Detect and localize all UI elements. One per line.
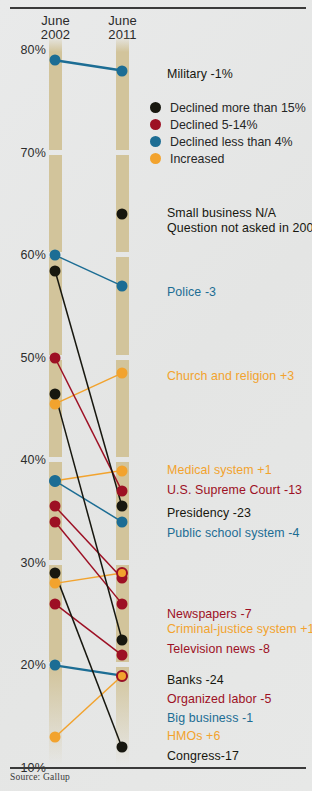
legend-label: Declined 5-14% xyxy=(170,118,257,132)
point-2011-presidency xyxy=(117,501,128,512)
legend-swatch-blue-icon xyxy=(150,136,161,147)
bottom-rule xyxy=(10,767,306,769)
point-2011-television-news xyxy=(117,598,128,609)
point-2002-presidency xyxy=(50,265,61,276)
connector-organized-labor xyxy=(55,604,122,655)
series-label-presidency-23: Presidency -23 xyxy=(167,506,251,520)
point-2002-television-news xyxy=(50,516,61,527)
point-2011-banks xyxy=(117,634,128,645)
point-2002-criminal-justice-system xyxy=(50,578,61,589)
point-2002-newspapers xyxy=(50,501,61,512)
series-label-small-business-n-a: Small business N/A xyxy=(167,206,276,220)
series-label-police-3: Police -3 xyxy=(167,285,216,299)
point-2011-small-business xyxy=(117,209,128,220)
legend-item-red: Declined 5-14% xyxy=(150,117,310,132)
connector-public-school-system xyxy=(55,481,122,522)
source-note: Source: Gallup xyxy=(10,772,70,782)
point-2002-banks xyxy=(50,388,61,399)
point-2002-police xyxy=(50,250,61,261)
column-header-2011-month: June xyxy=(85,14,160,28)
series-label-newspapers-7: Newspapers -7 xyxy=(167,607,252,621)
point-2011-congress xyxy=(117,742,128,753)
axis-bar-left-segment xyxy=(49,667,62,765)
connector-u-s-supreme-court xyxy=(55,358,122,491)
series-label-public-school-system-4: Public school system -4 xyxy=(167,526,299,540)
series-label-big-business-1: Big business -1 xyxy=(167,711,253,725)
connector-banks xyxy=(55,394,122,640)
connector-police xyxy=(55,255,122,286)
series-label-hmos-6: HMOs +6 xyxy=(167,729,220,743)
legend-swatch-red-icon xyxy=(150,119,161,130)
connector-medical-system xyxy=(55,471,122,481)
connector-newspapers xyxy=(55,506,122,578)
y-tick-40: 40% xyxy=(6,453,46,467)
point-2011-church-and-religion xyxy=(117,368,128,379)
point-2011-medical-system xyxy=(117,465,128,476)
point-2011-public-school-system xyxy=(117,516,128,527)
point-2002-public-school-system xyxy=(50,475,61,486)
axis-bar-right-segment xyxy=(116,155,129,253)
legend-item-blue: Declined less than 4% xyxy=(150,134,310,149)
legend-swatch-black-icon xyxy=(150,102,161,113)
y-tick-60: 60% xyxy=(6,248,46,262)
point-2011-u-s-supreme-court xyxy=(117,486,128,497)
axis-bar-right-segment xyxy=(116,257,129,355)
connector-television-news xyxy=(55,522,122,604)
connector-church-and-religion xyxy=(55,373,122,404)
series-label-medical-system-1: Medical system +1 xyxy=(167,463,272,477)
point-2011-organized-labor xyxy=(117,650,128,661)
point-2011-hmos xyxy=(116,670,128,682)
point-2002-church-and-religion xyxy=(50,398,61,409)
legend-swatch-orange-icon xyxy=(150,153,161,164)
axis-bar-right-segment xyxy=(116,36,129,150)
y-tick-80: 80% xyxy=(6,43,46,57)
axis-bar-left-segment xyxy=(49,36,62,150)
connector-congress xyxy=(55,573,122,747)
point-2002-military xyxy=(50,55,61,66)
top-rule xyxy=(10,7,306,9)
legend-label: Increased xyxy=(170,152,224,166)
connector-presidency xyxy=(55,271,122,507)
point-2002-congress xyxy=(50,568,61,579)
y-tick-70: 70% xyxy=(6,146,46,160)
series-label-military-1: Military -1% xyxy=(167,67,233,81)
series-label-banks-24: Banks -24 xyxy=(167,673,224,687)
point-2011-criminal-justice-system xyxy=(116,567,128,579)
point-2002-big-business xyxy=(50,660,61,671)
point-2002-hmos xyxy=(50,732,61,743)
y-tick-50: 50% xyxy=(6,351,46,365)
connector-military xyxy=(55,60,122,70)
connector-criminal-justice-system xyxy=(55,573,122,583)
y-tick-20: 20% xyxy=(6,658,46,672)
legend-label: Declined more than 15% xyxy=(170,101,306,115)
legend-label: Declined less than 4% xyxy=(170,135,293,149)
series-label-church-and-religion-3: Church and religion +3 xyxy=(167,369,294,383)
point-2002-organized-labor xyxy=(50,598,61,609)
point-2011-police xyxy=(117,280,128,291)
chart-canvas: June 2002 June 2011 80%70%60%50%40%30%20… xyxy=(0,0,312,791)
point-2011-military xyxy=(117,65,128,76)
axis-bar-left-segment xyxy=(49,155,62,253)
series-label-television-news-8: Television news -8 xyxy=(167,642,270,656)
point-2002-u-s-supreme-court xyxy=(50,352,61,363)
connector-big-business xyxy=(55,665,122,675)
legend: Declined more than 15%Declined 5-14%Decl… xyxy=(150,100,310,168)
legend-item-black: Declined more than 15% xyxy=(150,100,310,115)
column-header-2002-month: June xyxy=(18,14,93,28)
series-label-organized-labor-5: Organized labor -5 xyxy=(167,692,271,706)
series-label-congress-17: Congress-17 xyxy=(167,749,239,763)
connector-hmos xyxy=(55,676,122,738)
series-label-criminal-justice-system-1: Criminal-justice system +1 xyxy=(167,622,312,636)
series-label-question-not-asked-in-2002: Question not asked in 2002 xyxy=(167,221,312,235)
series-label-u-s-supreme-court-13: U.S. Supreme Court -13 xyxy=(167,483,302,497)
y-tick-30: 30% xyxy=(6,556,46,570)
legend-item-orange: Increased xyxy=(150,151,310,166)
